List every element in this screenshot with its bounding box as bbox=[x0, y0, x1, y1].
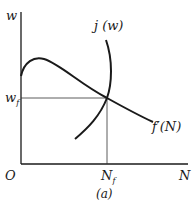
caption: (a) bbox=[96, 187, 113, 201]
y-axis-label: w bbox=[6, 8, 17, 23]
marginal-product-curve bbox=[21, 58, 153, 122]
wf-label: wf bbox=[5, 90, 21, 107]
marginal-product-label: f′(N) bbox=[151, 119, 181, 134]
j-curve-label: j (w) bbox=[91, 18, 123, 33]
origin-label: O bbox=[5, 168, 16, 183]
nf-label: Nf bbox=[100, 168, 117, 185]
x-axis-label: N bbox=[178, 168, 191, 183]
diagram: w j (w) wf f′(N) O Nf N (a) bbox=[0, 0, 195, 204]
